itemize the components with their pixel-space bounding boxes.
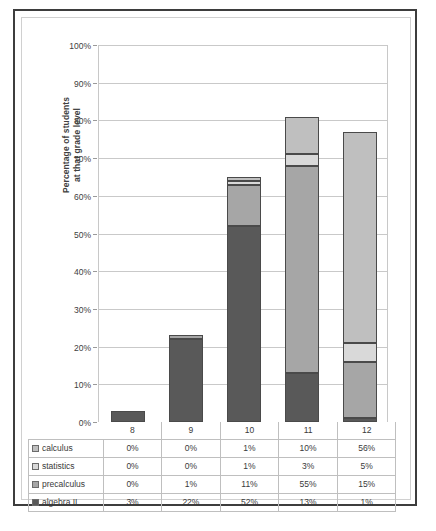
bar-segment-algebra-II-grade-10: [227, 226, 261, 422]
y-axis-tick-label: 70%: [47, 154, 91, 164]
y-axis-tick-mark: [93, 234, 97, 235]
table-row-grade-header: 89101112: [29, 422, 396, 440]
table-cell-algebra-II-grade-11: 13%: [279, 494, 338, 512]
y-axis-tick-mark: [93, 83, 97, 84]
legend-item-statistics[interactable]: statistics: [29, 458, 104, 476]
table-cell-calculus-grade-11: 10%: [279, 440, 338, 458]
table-cell-algebra-II-grade-8: 3%: [104, 494, 162, 512]
bar-segment-algebra-II-grade-8: [111, 411, 145, 422]
y-axis-tick-mark: [93, 384, 97, 385]
y-axis-tick-label: 80%: [47, 116, 91, 126]
bar-segment-algebra-II-grade-9: [169, 339, 203, 422]
bar-column-grade-10: [227, 45, 261, 422]
bar-segment-statistics-grade-10: [227, 181, 261, 185]
table-header-grade-11: 11: [279, 422, 338, 440]
table-row: precalculus0%1%11%55%15%: [29, 476, 396, 494]
table-cell-calculus-grade-12: 56%: [337, 440, 396, 458]
table-header-grade-10: 10: [220, 422, 279, 440]
table-cell-statistics-grade-10: 1%: [220, 458, 279, 476]
legend-label: statistics: [42, 461, 75, 471]
legend-item-algebra-II[interactable]: algebra II: [29, 494, 104, 512]
y-axis-tick-label: 20%: [47, 343, 91, 353]
bar-segment-precalculus-grade-12: [343, 362, 377, 419]
table-header-grade-8: 8: [104, 422, 162, 440]
table-row: calculus0%0%1%10%56%: [29, 440, 396, 458]
table-cell-statistics-grade-9: 0%: [162, 458, 221, 476]
data-table: 89101112calculus0%0%1%10%56%statistics0%…: [28, 422, 396, 512]
y-axis-tick-label: 30%: [47, 305, 91, 315]
y-axis-tick-mark: [93, 347, 97, 348]
chart-figure-frame: Percentage of students at that grade lev…: [13, 9, 417, 506]
bar-segment-calculus-grade-10: [227, 177, 261, 181]
y-axis-tick-label: 90%: [47, 79, 91, 89]
bar-column-grade-12: [343, 45, 377, 422]
legend-swatch-icon-calculus: [32, 445, 39, 452]
legend-swatch-icon-precalculus: [32, 481, 39, 488]
legend-swatch-icon-algebra-II: [32, 499, 39, 506]
chart-plot-container: Percentage of students at that grade lev…: [21, 17, 411, 500]
y-axis-tick-mark: [93, 120, 97, 121]
bar-segment-precalculus-grade-9: [169, 335, 203, 339]
table-cell-calculus-grade-9: 0%: [162, 440, 221, 458]
table-cell-precalculus-grade-12: 15%: [337, 476, 396, 494]
y-axis-tick-mark: [93, 309, 97, 310]
y-axis-tick-label: 40%: [47, 267, 91, 277]
table-corner-cell: [29, 422, 104, 440]
y-axis-tick-label: 60%: [47, 192, 91, 202]
legend-item-precalculus[interactable]: precalculus: [29, 476, 104, 494]
table-cell-calculus-grade-8: 0%: [104, 440, 162, 458]
table-row: statistics0%0%1%3%5%: [29, 458, 396, 476]
y-axis-tick-label: 10%: [47, 380, 91, 390]
legend-label: precalculus: [42, 479, 85, 489]
plot-area: 0%10%20%30%40%50%60%70%80%90%100%: [98, 45, 388, 422]
legend-label: calculus: [42, 443, 73, 453]
table-cell-precalculus-grade-8: 0%: [104, 476, 162, 494]
table-cell-statistics-grade-8: 0%: [104, 458, 162, 476]
bar-segment-statistics-grade-12: [343, 343, 377, 362]
table-cell-precalculus-grade-9: 1%: [162, 476, 221, 494]
bar-segment-calculus-grade-11: [285, 117, 319, 155]
table-cell-algebra-II-grade-9: 22%: [162, 494, 221, 512]
table-cell-precalculus-grade-10: 11%: [220, 476, 279, 494]
bar-column-grade-11: [285, 45, 319, 422]
legend-label: algebra II: [42, 497, 77, 507]
y-axis-tick-mark: [93, 158, 97, 159]
y-axis-tick-mark: [93, 196, 97, 197]
bar-segment-statistics-grade-11: [285, 154, 319, 165]
bar-column-grade-9: [169, 45, 203, 422]
bar-segment-precalculus-grade-11: [285, 166, 319, 373]
y-axis-tick-label: 50%: [47, 230, 91, 240]
y-axis-tick-mark: [93, 271, 97, 272]
bar-segment-precalculus-grade-10: [227, 185, 261, 226]
bar-segment-algebra-II-grade-11: [285, 373, 319, 422]
table-header-grade-12: 12: [337, 422, 396, 440]
table-cell-calculus-grade-10: 1%: [220, 440, 279, 458]
table-cell-algebra-II-grade-10: 52%: [220, 494, 279, 512]
table-cell-algebra-II-grade-12: 1%: [337, 494, 396, 512]
bar-column-grade-8: [111, 45, 145, 422]
table-cell-precalculus-grade-11: 55%: [279, 476, 338, 494]
table-header-grade-9: 9: [162, 422, 221, 440]
y-axis-tick-mark: [93, 45, 97, 46]
legend-swatch-icon-statistics: [32, 463, 39, 470]
table-cell-statistics-grade-11: 3%: [279, 458, 338, 476]
legend-item-calculus[interactable]: calculus: [29, 440, 104, 458]
y-axis-tick-label: 100%: [47, 41, 91, 51]
table-cell-statistics-grade-12: 5%: [337, 458, 396, 476]
bar-segment-calculus-grade-12: [343, 132, 377, 343]
table-row: algebra II3%22%52%13%1%: [29, 494, 396, 512]
